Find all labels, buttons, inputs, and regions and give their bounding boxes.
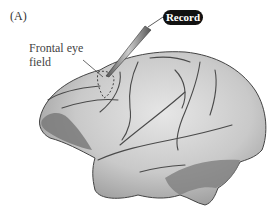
frontal-eye-field-label: Frontal eye field	[29, 41, 99, 69]
fef-label-line1: Frontal eye	[29, 41, 99, 55]
fef-label-line2: field	[29, 55, 99, 69]
panel-label: (A)	[10, 9, 27, 24]
brain-illustration	[0, 0, 275, 221]
record-badge: Record	[163, 10, 203, 25]
